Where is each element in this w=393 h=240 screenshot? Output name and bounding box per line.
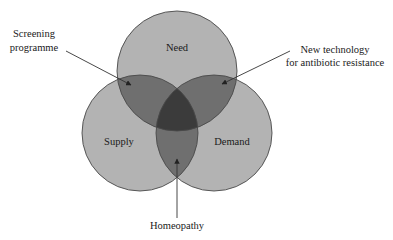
new-tech-line-1: New technology (300, 44, 370, 55)
annotation-screening: Screening programme (10, 28, 131, 85)
new-tech-line-2: for antibiotic resistance (286, 57, 385, 68)
annotation-new-technology: New technology for antibiotic resistance (222, 44, 385, 84)
venn-diagram: Need Supply Demand Screening programme N… (0, 0, 393, 240)
label-need: Need (166, 42, 189, 53)
label-supply: Supply (104, 136, 135, 147)
screening-line-1: Screening (13, 28, 56, 39)
screening-line-2: programme (10, 42, 59, 53)
label-demand: Demand (214, 136, 250, 147)
homeopathy-label: Homeopathy (150, 220, 205, 231)
